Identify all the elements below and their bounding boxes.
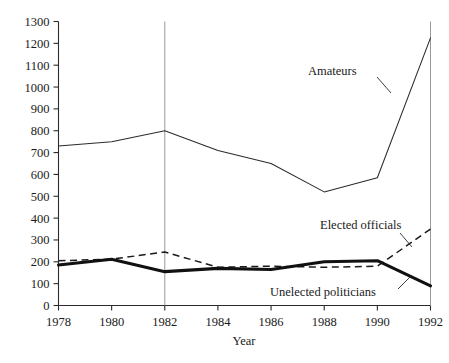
x-tick-label: 1992 [418,315,443,329]
elected-officials-label: Elected officials [320,218,401,232]
y-tick-label: 200 [31,255,50,269]
elected-officials-leader-line [400,233,412,247]
unelected-politicians-label: Unelected politicians [270,285,376,299]
y-tick-labels: 0100200300400500600700800900100011001200… [25,15,50,313]
reference-lines [165,22,431,306]
y-tick-label: 1300 [25,15,50,29]
y-tick-label: 900 [31,102,50,116]
x-tick-labels: 19781980198219841986198819901992 [46,315,443,329]
x-axis-title: Year [232,334,256,348]
unelected-politicians-leader-line [398,275,412,289]
y-tick-label: 600 [31,168,50,182]
y-tick-label: 500 [31,190,50,204]
x-tick-label: 1984 [205,315,231,329]
y-tick-label: 400 [31,212,50,226]
x-tick-label: 1980 [99,315,124,329]
series-line-unelected-politicians [59,259,431,286]
y-tick-label: 100 [31,277,50,291]
y-tick-label: 300 [31,233,50,247]
x-tick-label: 1986 [259,315,284,329]
x-tick-label: 1978 [46,315,71,329]
x-tick-marks [59,306,431,311]
series-line-amateurs [59,38,431,192]
y-tick-label: 1100 [25,59,50,73]
x-tick-label: 1982 [152,315,177,329]
amateurs-label: Amateurs [308,64,357,78]
amateurs-leader-line [377,77,391,93]
y-tick-label: 700 [31,146,50,160]
y-tick-label: 1200 [25,37,50,51]
y-tick-label: 0 [43,299,49,313]
x-tick-label: 1990 [365,315,390,329]
chart-figure: 0100200300400500600700800900100011001200… [0,0,449,363]
y-tick-label: 1000 [25,81,50,95]
line-chart-canvas: 0100200300400500600700800900100011001200… [0,0,449,363]
x-tick-label: 1988 [312,315,337,329]
y-tick-marks [54,22,59,306]
y-tick-label: 800 [31,124,50,138]
